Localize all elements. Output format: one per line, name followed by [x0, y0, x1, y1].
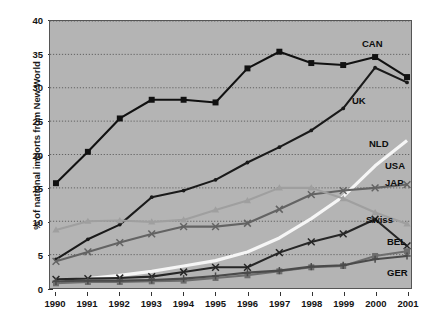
series-label-jap: JAP — [385, 177, 403, 188]
series-label-uk: UK — [352, 95, 366, 106]
series-label-usa: USA — [385, 160, 405, 171]
series-label-bel: BEL — [387, 236, 406, 247]
line-chart: % of national imports from New World 051… — [0, 0, 426, 330]
series-label-ger: GER — [387, 267, 408, 278]
series-labels: CANUKNLDUSAJAPSwissBELGER — [0, 0, 426, 330]
series-label-nld: NLD — [369, 138, 389, 149]
series-label-can: CAN — [362, 38, 383, 49]
series-label-swiss: Swiss — [366, 214, 393, 225]
